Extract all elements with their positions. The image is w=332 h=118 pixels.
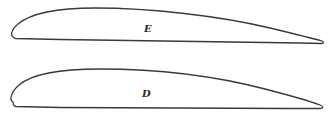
airfoil-e: E — [12, 8, 324, 44]
airfoil-d-label: D — [141, 88, 151, 99]
airfoil-d-outline — [11, 69, 323, 109]
airfoil-e-outline — [12, 8, 324, 44]
airfoil-e-label: E — [143, 23, 152, 34]
airfoil-d: D — [11, 69, 323, 109]
airfoil-diagram: E D — [0, 0, 332, 118]
